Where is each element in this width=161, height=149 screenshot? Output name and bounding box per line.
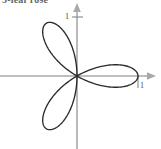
x-axis-tick-label-1: 1 <box>140 81 144 90</box>
plot-svg: 1 1 <box>0 0 161 149</box>
y-axis-tick-label-1: 1 <box>65 12 69 21</box>
rose-curve-figure: 3-leaf rose 1 1 <box>0 0 161 149</box>
polar-plot-canvas: 1 1 <box>0 0 161 149</box>
x-axis-arrowhead <box>147 72 156 80</box>
y-axis-arrowhead <box>73 3 81 12</box>
